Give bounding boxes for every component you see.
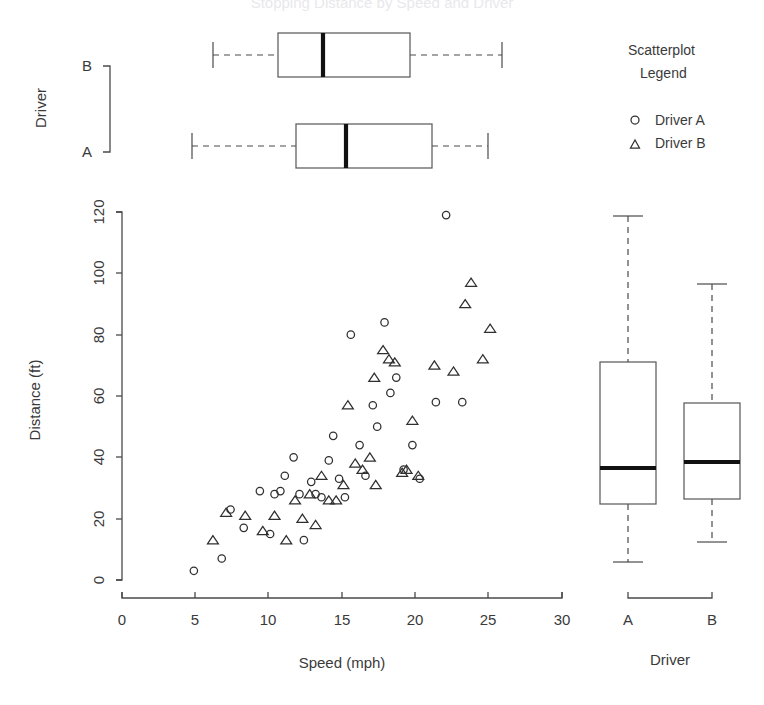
data-point-circle bbox=[300, 536, 307, 543]
data-point-circle bbox=[409, 441, 416, 448]
x-tick-label-10: 10 bbox=[260, 611, 277, 628]
data-point-triangle bbox=[269, 511, 280, 519]
data-point-circle bbox=[381, 319, 388, 326]
y-axis-ticks bbox=[116, 212, 122, 580]
data-point-triangle bbox=[350, 459, 361, 467]
box-iqr bbox=[684, 403, 740, 499]
legend-label-driver-a: Driver A bbox=[655, 112, 705, 128]
x-tick-label-25: 25 bbox=[480, 611, 497, 628]
y-axis-title: Distance (ft) bbox=[26, 360, 43, 441]
top-marginal-boxplot-panel: Driver B A bbox=[32, 33, 502, 168]
box-iqr bbox=[278, 33, 410, 77]
data-point-triangle bbox=[221, 508, 232, 516]
data-point-triangle bbox=[429, 361, 440, 369]
y-tick-label-120: 120 bbox=[90, 199, 107, 224]
right-panel-label-a: A bbox=[623, 611, 633, 628]
top-panel-label-a: A bbox=[82, 143, 92, 160]
data-point-triangle bbox=[485, 324, 496, 332]
data-point-circle bbox=[290, 454, 297, 461]
data-point-triangle bbox=[460, 300, 471, 308]
top-panel-label-b: B bbox=[82, 57, 92, 74]
right-panel-group-axis bbox=[628, 592, 712, 598]
x-tick-label-5: 5 bbox=[191, 611, 199, 628]
y-tick-label-20: 20 bbox=[90, 511, 107, 528]
y-tick-label-0: 0 bbox=[90, 576, 107, 584]
top-panel-group-axis bbox=[103, 66, 110, 152]
legend-title-line2: Legend bbox=[640, 65, 687, 81]
data-point-circle bbox=[218, 555, 225, 562]
y-tick-label-80: 80 bbox=[90, 327, 107, 344]
right-panel-axis-title: Driver bbox=[650, 651, 690, 668]
data-point-circle bbox=[318, 494, 325, 501]
figure-canvas: Stopping Distance by Speed and Driver Dr… bbox=[0, 0, 764, 705]
legend-title-line1: Scatterplot bbox=[628, 42, 695, 58]
scatterplot-legend: Scatterplot Legend Driver A Driver B bbox=[628, 42, 706, 151]
top-boxplot-driver-a bbox=[192, 124, 488, 168]
data-point-circle bbox=[432, 398, 439, 405]
x-tick-label-15: 15 bbox=[334, 611, 351, 628]
legend-label-driver-b: Driver B bbox=[655, 135, 706, 151]
x-tick-label-0: 0 bbox=[118, 611, 126, 628]
data-point-triangle bbox=[407, 416, 418, 424]
data-point-circle bbox=[369, 402, 376, 409]
data-point-circle bbox=[393, 374, 400, 381]
data-point-circle bbox=[281, 472, 288, 479]
data-point-circle bbox=[256, 487, 263, 494]
data-point-circle bbox=[374, 423, 381, 430]
data-point-triangle bbox=[316, 471, 327, 479]
box-iqr bbox=[600, 362, 656, 504]
plot-svg: Stopping Distance by Speed and Driver Dr… bbox=[0, 0, 764, 705]
top-boxplot-driver-b bbox=[213, 33, 502, 77]
data-point-triangle bbox=[331, 496, 342, 504]
data-point-triangle bbox=[369, 373, 380, 381]
data-point-circle bbox=[341, 494, 348, 501]
right-boxplot-driver-b bbox=[684, 284, 740, 542]
x-axis-ticks bbox=[122, 592, 562, 598]
legend-marker-circle-icon bbox=[631, 116, 639, 124]
data-point-circle bbox=[459, 398, 466, 405]
data-point-circle bbox=[296, 490, 303, 497]
data-point-circle bbox=[330, 432, 337, 439]
data-point-triangle bbox=[310, 520, 321, 528]
data-point-circle bbox=[240, 524, 247, 531]
data-point-triangle bbox=[342, 401, 353, 409]
data-point-circle bbox=[356, 441, 363, 448]
data-point-circle bbox=[442, 211, 449, 218]
x-axis-title: Speed (mph) bbox=[299, 654, 386, 671]
right-boxplot-driver-a bbox=[600, 216, 656, 562]
data-point-triangle bbox=[448, 367, 459, 375]
data-point-triangle bbox=[297, 514, 308, 522]
data-point-triangle bbox=[378, 346, 389, 354]
data-point-triangle bbox=[370, 480, 381, 488]
series-driver-b bbox=[207, 278, 495, 544]
data-point-circle bbox=[347, 331, 354, 338]
right-panel-label-b: B bbox=[707, 611, 717, 628]
data-point-triangle bbox=[207, 536, 218, 544]
data-point-circle bbox=[416, 475, 423, 482]
x-tick-label-20: 20 bbox=[407, 611, 424, 628]
scatter-points-layer bbox=[190, 211, 495, 574]
data-point-circle bbox=[277, 487, 284, 494]
series-driver-a bbox=[190, 211, 466, 574]
data-point-triangle bbox=[466, 278, 477, 286]
data-point-circle bbox=[227, 506, 234, 513]
data-point-circle bbox=[387, 389, 394, 396]
data-point-triangle bbox=[389, 358, 400, 366]
data-point-triangle bbox=[364, 453, 375, 461]
data-point-circle bbox=[335, 475, 342, 482]
data-point-circle bbox=[325, 457, 332, 464]
data-point-triangle bbox=[477, 355, 488, 363]
x-tick-label-30: 30 bbox=[554, 611, 571, 628]
data-point-circle bbox=[308, 478, 315, 485]
box-iqr bbox=[296, 124, 432, 168]
data-point-triangle bbox=[240, 511, 251, 519]
top-panel-axis-title: Driver bbox=[32, 88, 49, 128]
clipped-figure-title: Stopping Distance by Speed and Driver bbox=[251, 0, 514, 11]
y-tick-label-100: 100 bbox=[90, 260, 107, 285]
right-marginal-boxplot-panel: A B Driver bbox=[600, 216, 740, 668]
y-tick-label-40: 40 bbox=[90, 449, 107, 466]
data-point-circle bbox=[190, 567, 197, 574]
data-point-triangle bbox=[281, 536, 292, 544]
data-point-triangle bbox=[290, 496, 301, 504]
main-scatter-panel: 0 20 40 60 80 100 120 Distance (ft) 0 5 … bbox=[26, 199, 570, 671]
